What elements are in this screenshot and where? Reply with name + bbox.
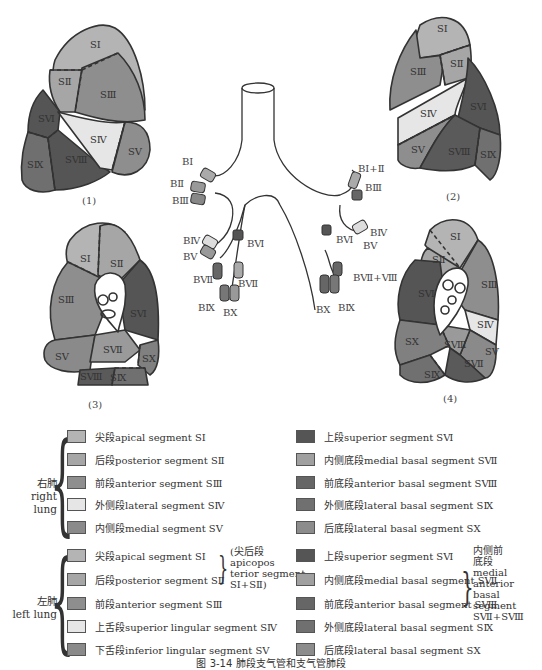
svg-text:BⅤ: BⅤ <box>183 251 198 262</box>
legend-item: 上舌段superior lingular segment SⅣ <box>67 619 277 633</box>
svg-text:BⅥ: BⅥ <box>247 238 264 249</box>
svg-text:SⅣ: SⅣ <box>420 108 438 119</box>
legend-item: 上段superior segment SⅥ <box>296 548 453 562</box>
swatch <box>67 498 86 511</box>
swatch <box>67 430 86 443</box>
legend-item: 前段anterior segment SⅢ <box>67 475 222 489</box>
figure-caption: 图 3-14 肺段支气管和支气管肺段 <box>0 655 542 670</box>
svg-text:SⅦ: SⅦ <box>103 344 123 355</box>
svg-text:SⅨ: SⅨ <box>480 149 497 160</box>
swatch <box>67 521 86 534</box>
svg-text:SⅨ: SⅨ <box>424 369 441 380</box>
caption-fig1: (1) <box>82 195 96 206</box>
svg-text:BⅨ: BⅨ <box>198 302 215 313</box>
svg-text:SⅧ: SⅧ <box>65 154 88 165</box>
svg-text:SⅢ: SⅢ <box>58 294 75 305</box>
svg-text:SⅣ: SⅣ <box>477 319 495 330</box>
apicoposterior-brace: } <box>218 552 228 584</box>
svg-text:BⅩ: BⅩ <box>316 304 331 315</box>
legend-item: 尖段apical segment SⅠ <box>67 548 206 562</box>
svg-text:SⅥ: SⅥ <box>38 113 55 124</box>
svg-text:SⅢ: SⅢ <box>481 279 498 290</box>
svg-text:SⅠ: SⅠ <box>450 231 461 242</box>
svg-text:SⅩ: SⅩ <box>405 336 420 347</box>
svg-text:SⅦ: SⅦ <box>464 358 484 369</box>
svg-text:BⅥ: BⅥ <box>336 234 353 245</box>
swatch <box>67 549 86 562</box>
svg-text:SⅧ: SⅧ <box>448 146 471 157</box>
apicoposterior-note: (尖后段 apicopos terior segment SⅠ+SⅡ) <box>230 546 305 590</box>
svg-text:BⅣ: BⅣ <box>370 227 388 238</box>
legend-item: 内侧段medial segment SⅤ <box>67 520 223 534</box>
svg-text:SⅧ: SⅧ <box>444 339 467 350</box>
svg-text:SⅧ: SⅧ <box>80 371 103 382</box>
svg-text:SⅨ: SⅨ <box>27 159 44 170</box>
svg-text:SⅤ: SⅤ <box>55 351 70 362</box>
svg-text:BⅢ: BⅢ <box>172 195 189 206</box>
svg-text:BⅣ: BⅣ <box>183 235 201 246</box>
svg-text:BⅨ: BⅨ <box>338 302 355 313</box>
legend-item: 尖段apical segment SⅠ <box>67 429 206 443</box>
legend-item: 下舌段inferior lingular segment SⅤ <box>67 642 270 656</box>
caption-fig4: (4) <box>443 393 457 404</box>
svg-text:SⅠ: SⅠ <box>90 39 101 50</box>
legend-item: 外侧底段lateral basal segment SⅨ <box>296 497 493 511</box>
svg-text:SⅤ: SⅤ <box>485 346 500 357</box>
swatch <box>296 453 315 466</box>
svg-text:BⅦ: BⅦ <box>238 278 258 289</box>
medial-anterior-note: 内侧前 底段 medial anterior basal segment SⅦ+… <box>473 545 524 622</box>
swatch <box>67 597 86 610</box>
svg-text:BⅠ+Ⅱ: BⅠ+Ⅱ <box>358 163 385 174</box>
caption-fig2: (2) <box>446 191 460 202</box>
svg-text:BⅦ: BⅦ <box>193 274 213 285</box>
caption-fig3: (3) <box>88 399 102 410</box>
svg-text:SⅢ: SⅢ <box>410 66 427 77</box>
swatch <box>296 573 315 586</box>
svg-text:SⅥ: SⅥ <box>418 288 435 299</box>
svg-text:SⅥ: SⅥ <box>470 101 487 112</box>
swatch <box>296 498 315 511</box>
bronchus-labels: BⅠ BⅡ BⅢ BⅣ BⅤ BⅥ BⅦ BⅦ BⅨ BⅩ BⅠ+Ⅱ BⅢ BⅣ… <box>170 156 398 318</box>
svg-text:SⅡ: SⅡ <box>58 76 72 87</box>
swatch <box>296 643 315 656</box>
svg-text:SⅨ: SⅨ <box>110 372 127 383</box>
swatch <box>296 521 315 534</box>
legend-item: 后底段lateral basal segment SⅩ <box>296 642 481 656</box>
swatch <box>296 476 315 489</box>
svg-text:BⅢ: BⅢ <box>365 182 382 193</box>
swatch <box>296 549 315 562</box>
swatch <box>67 453 86 466</box>
legend-item: 外侧段lateral segment SⅣ <box>67 497 225 511</box>
legend-item: 前段anterior segment SⅢ <box>67 596 222 610</box>
svg-text:BⅤ: BⅤ <box>363 240 378 251</box>
swatch <box>67 620 86 633</box>
svg-text:SⅡ: SⅡ <box>432 254 446 265</box>
swatch <box>296 430 315 443</box>
legend-item: 内侧底段medial basal segment SⅦ <box>296 452 497 466</box>
figure-area: SⅠ SⅡ SⅢ SⅣ SⅤ SⅥ SⅧ SⅨ SⅠ SⅡ SⅢ SⅣ SⅤ S… <box>0 0 542 420</box>
legend-item: 上段superior segment SⅥ <box>296 429 453 443</box>
svg-text:BⅠ: BⅠ <box>182 156 193 167</box>
lung-diagrams: SⅠ SⅡ SⅢ SⅣ SⅤ SⅥ SⅧ SⅨ SⅠ SⅡ SⅢ SⅣ SⅤ S… <box>0 0 542 420</box>
legend-item: 后底段lateral basal segment SⅩ <box>296 520 481 534</box>
legend-item: 后段posterior segment SⅡ <box>67 452 225 466</box>
legend-item: 后段posterior segment SⅡ <box>67 572 225 586</box>
medial-anterior-brace: } <box>461 566 474 606</box>
svg-text:SⅡ: SⅡ <box>450 58 464 69</box>
legend-item: 外侧底段lateral basal segment SⅨ <box>296 619 493 633</box>
svg-text:SⅠ: SⅠ <box>80 253 91 264</box>
svg-text:SⅣ: SⅣ <box>90 134 108 145</box>
swatch <box>67 476 86 489</box>
swatch <box>67 573 86 586</box>
svg-text:BⅩ: BⅩ <box>223 307 238 318</box>
swatch <box>67 643 86 656</box>
swatch <box>296 620 315 633</box>
svg-text:BⅦ+Ⅷ: BⅦ+Ⅷ <box>353 272 398 283</box>
svg-text:SⅠ: SⅠ <box>437 23 448 34</box>
svg-text:SⅤ: SⅤ <box>411 144 426 155</box>
svg-text:SⅡ: SⅡ <box>110 258 124 269</box>
swatch <box>296 597 315 610</box>
svg-text:SⅢ: SⅢ <box>100 89 117 100</box>
legend-item: 前底段anterior basal segment SⅧ <box>296 475 497 489</box>
svg-text:SⅩ: SⅩ <box>142 353 157 364</box>
